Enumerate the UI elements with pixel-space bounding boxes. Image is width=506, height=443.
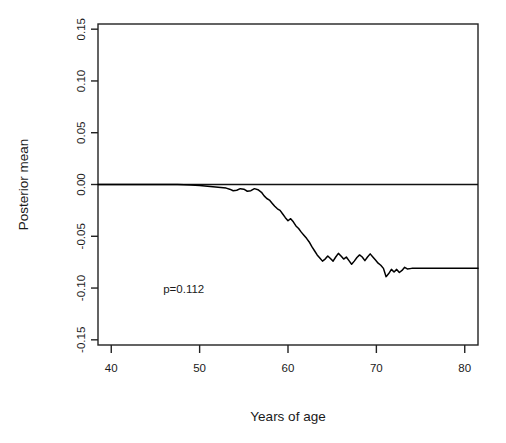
y-tick-label-3: 0.00 bbox=[75, 173, 87, 195]
y-axis-title: Posterior mean bbox=[16, 139, 31, 231]
y-tick-label-4: 0.05 bbox=[75, 122, 87, 144]
y-tick-label-1: -0.10 bbox=[75, 275, 87, 301]
x-tick-label-2: 60 bbox=[282, 362, 295, 374]
y-tick-label-5: 0.10 bbox=[75, 70, 87, 92]
x-tick-label-3: 70 bbox=[370, 362, 383, 374]
x-tick-label-1: 50 bbox=[193, 362, 206, 374]
series-line-0 bbox=[98, 185, 478, 277]
p-value-annotation: p=0.112 bbox=[163, 283, 204, 295]
chart-figure: -0.15-0.10-0.050.000.050.100.15405060708… bbox=[0, 0, 506, 443]
y-tick-label-6: 0.15 bbox=[75, 18, 87, 40]
x-tick-label-0: 40 bbox=[105, 362, 118, 374]
posterior-mean-line-chart: -0.15-0.10-0.050.000.050.100.15405060708… bbox=[0, 0, 506, 443]
x-axis-title: Years of age bbox=[250, 409, 325, 424]
y-tick-label-0: -0.15 bbox=[75, 327, 87, 353]
y-tick-label-2: -0.05 bbox=[75, 223, 87, 249]
x-tick-label-4: 80 bbox=[458, 362, 471, 374]
